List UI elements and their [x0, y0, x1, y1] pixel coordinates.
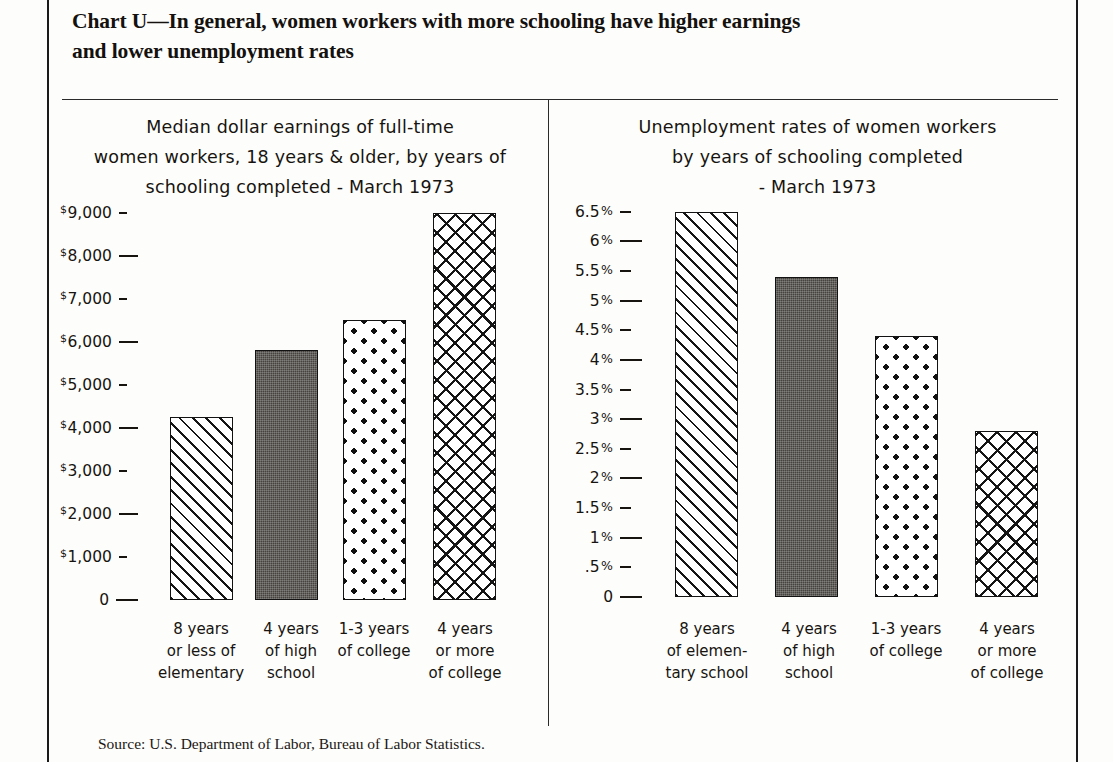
chart-page: Chart U—In general, women workers with m… [0, 0, 1113, 762]
earnings-bars [60, 212, 540, 612]
bar [675, 212, 738, 597]
x-axis-category-label: 4 yearsof highschool [757, 618, 861, 684]
category-label-line: school [243, 662, 339, 684]
category-label-line: of elemen- [655, 640, 759, 662]
earnings-subtitle-line-2: women workers, 18 years & older, by year… [60, 142, 540, 172]
earnings-chart-subtitle: Median dollar earnings of full-time wome… [60, 112, 540, 202]
category-label-line: 4 years [243, 618, 339, 640]
chart-title: Chart U—In general, women workers with m… [72, 6, 1062, 66]
category-label-line: of college [326, 640, 422, 662]
x-axis-category-label: 8 yearsof elemen-tary school [655, 618, 759, 684]
chart-title-line-2: and lower unemployment rates [72, 36, 1062, 66]
bar [775, 277, 838, 597]
bar [343, 320, 406, 600]
x-axis-category-label: 8 yearsor less ofelementary [153, 618, 249, 684]
page-border-left [47, 0, 49, 762]
earnings-plot-area: $9,000$8,000$7,000$6,000$5,000$4,000$3,0… [60, 212, 540, 612]
bar [875, 336, 938, 597]
x-axis-category-label: 4 yearsor moreof college [417, 618, 513, 684]
unemployment-subtitle-line-1: Unemployment rates of women workers [560, 112, 1075, 142]
category-label-line: 4 years [757, 618, 861, 640]
category-label-line: school [757, 662, 861, 684]
unemployment-x-axis-labels: 8 yearsof elemen-tary school4 yearsof hi… [560, 618, 1075, 704]
page-border-right [1076, 0, 1078, 762]
category-label-line: or less of [153, 640, 249, 662]
x-axis-category-label: 1-3 yearsof college [854, 618, 958, 662]
bar [975, 431, 1038, 597]
chart-title-line-1: Chart U—In general, women workers with m… [72, 6, 1062, 36]
category-label-line: elementary [153, 662, 249, 684]
category-label-line: 8 years [655, 618, 759, 640]
category-label-line: or more [417, 640, 513, 662]
earnings-subtitle-line-3: schooling completed - March 1973 [60, 172, 540, 202]
category-label-line: of college [854, 640, 958, 662]
category-label-line: of college [417, 662, 513, 684]
unemployment-subtitle-line-2: by years of schooling completed [560, 142, 1075, 172]
x-axis-category-label: 4 yearsof highschool [243, 618, 339, 684]
category-label-line: 8 years [153, 618, 249, 640]
panel-divider-rule [548, 100, 549, 726]
category-label-line: of high [757, 640, 861, 662]
category-label-line: of college [955, 662, 1059, 684]
bar [433, 213, 496, 600]
category-label-line: 1-3 years [326, 618, 422, 640]
unemployment-subtitle-line-3: - March 1973 [560, 172, 1075, 202]
source-note: Source: U.S. Department of Labor, Bureau… [98, 735, 485, 753]
x-axis-category-label: 1-3 yearsof college [326, 618, 422, 662]
bar [255, 350, 318, 600]
title-divider-rule [62, 99, 1058, 100]
category-label-line: 4 years [417, 618, 513, 640]
category-label-line: of high [243, 640, 339, 662]
category-label-line: 1-3 years [854, 618, 958, 640]
category-label-line: tary school [655, 662, 759, 684]
x-axis-category-label: 4 yearsor moreof college [955, 618, 1059, 684]
unemployment-chart-subtitle: Unemployment rates of women workers by y… [560, 112, 1075, 202]
earnings-chart-panel: Median dollar earnings of full-time wome… [60, 112, 540, 704]
category-label-line: or more [955, 640, 1059, 662]
unemployment-bars [560, 212, 1075, 612]
unemployment-chart-panel: Unemployment rates of women workers by y… [560, 112, 1075, 704]
earnings-subtitle-line-1: Median dollar earnings of full-time [60, 112, 540, 142]
earnings-x-axis-labels: 8 yearsor less ofelementary4 yearsof hig… [60, 618, 540, 704]
unemployment-plot-area: 6.5%6%5.5%5%4.5%4%3.5%3%2.5%2%1.5%1%.5%0 [560, 212, 1075, 612]
bar [170, 417, 233, 600]
category-label-line: 4 years [955, 618, 1059, 640]
